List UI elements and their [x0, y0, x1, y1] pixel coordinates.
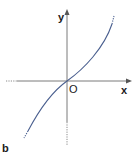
y-axis-label: y [58, 12, 64, 23]
graph-canvas [0, 0, 132, 155]
y-axis-arrow-icon [65, 9, 70, 15]
x-axis-label: x [121, 85, 127, 96]
curve-dotted-end-top [112, 16, 114, 24]
panel-label: b [2, 143, 9, 154]
function-curve [28, 24, 112, 131]
x-axis-arrow-icon [126, 79, 132, 84]
origin-label: O [69, 84, 78, 95]
curve-dotted-end-bottom [24, 131, 28, 138]
